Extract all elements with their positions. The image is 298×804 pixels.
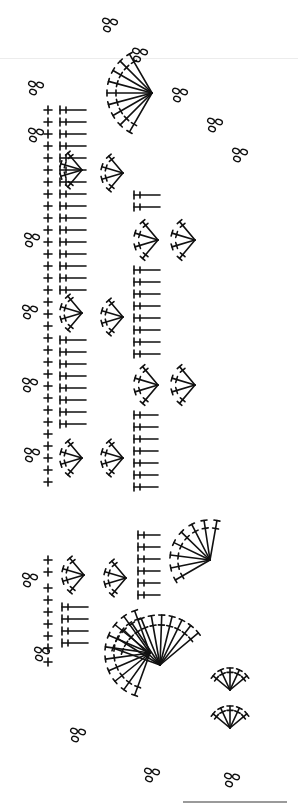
crochet-chart <box>0 0 298 804</box>
bottom-rule-line <box>183 801 287 803</box>
double-crochet-symbols <box>60 106 160 647</box>
single-crochet-symbols <box>44 106 52 666</box>
fan-cluster-symbols <box>60 53 249 728</box>
chain-symbols <box>22 17 248 787</box>
